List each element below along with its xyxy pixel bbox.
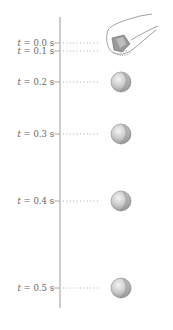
time-label: t = 0.3 s [0,129,54,139]
time-value: = 0.4 s [21,196,54,206]
ball-icon [111,191,131,211]
falling-ball-diagram: t = 0.0 st = 0.1 st = 0.2 st = 0.3 st = … [0,0,173,330]
released-ball-icon [112,35,130,52]
time-value: = 0.1 s [21,46,54,56]
ball-icon [111,124,131,144]
time-label: t = 0.4 s [0,196,54,206]
time-label: t = 0.2 s [0,77,54,87]
ball-icon [111,72,131,92]
time-value: = 0.5 s [21,283,54,293]
time-label: t = 0.1 s [0,46,54,56]
time-value: = 0.2 s [21,77,54,87]
time-label: t = 0.5 s [0,283,54,293]
ball-group [111,72,131,298]
tick-group [54,43,100,288]
ball-icon [111,278,131,298]
time-value: = 0.3 s [21,129,54,139]
